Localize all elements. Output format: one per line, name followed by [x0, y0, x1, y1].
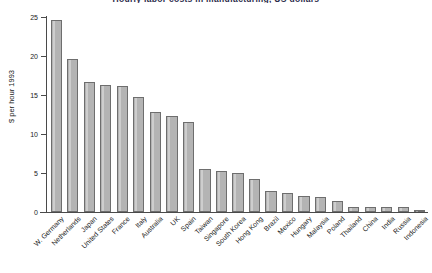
bar — [414, 210, 425, 212]
y-tick-label: 10 — [16, 131, 38, 138]
bar — [232, 173, 243, 212]
y-tick-mark — [41, 134, 46, 135]
y-tick-mark — [41, 17, 46, 18]
bar — [282, 193, 293, 212]
y-axis-label: $ per hour 1993 — [7, 55, 16, 139]
bar — [398, 207, 409, 212]
bar — [51, 20, 62, 212]
y-tick-mark — [41, 173, 46, 174]
bar — [249, 179, 260, 212]
y-tick-label: 20 — [16, 53, 38, 60]
bar — [265, 191, 276, 212]
bar — [298, 196, 309, 212]
bar — [216, 171, 227, 212]
chart-title: Hourly labor costs in manufacturing, US … — [0, 0, 432, 3]
bar — [84, 82, 95, 212]
y-tick-label: 0 — [16, 209, 38, 216]
y-tick-label: 15 — [16, 92, 38, 99]
bar — [332, 201, 343, 212]
bar — [166, 116, 177, 212]
bar — [133, 97, 144, 212]
bar — [381, 207, 392, 212]
y-axis-line — [46, 16, 47, 213]
bar — [150, 112, 161, 212]
bar — [67, 59, 78, 212]
bar-chart: Hourly labor costs in manufacturing, US … — [0, 0, 432, 273]
y-tick-mark — [41, 56, 46, 57]
y-tick-label: 5 — [16, 170, 38, 177]
bar — [365, 207, 376, 212]
bar — [315, 197, 326, 212]
bar — [183, 122, 194, 212]
y-tick-label: 25 — [16, 14, 38, 21]
x-axis-line — [40, 212, 428, 213]
bar — [199, 169, 210, 212]
bar — [100, 85, 111, 212]
bar — [117, 86, 128, 212]
y-tick-mark — [41, 212, 46, 213]
y-tick-mark — [41, 95, 46, 96]
bar — [348, 207, 359, 212]
